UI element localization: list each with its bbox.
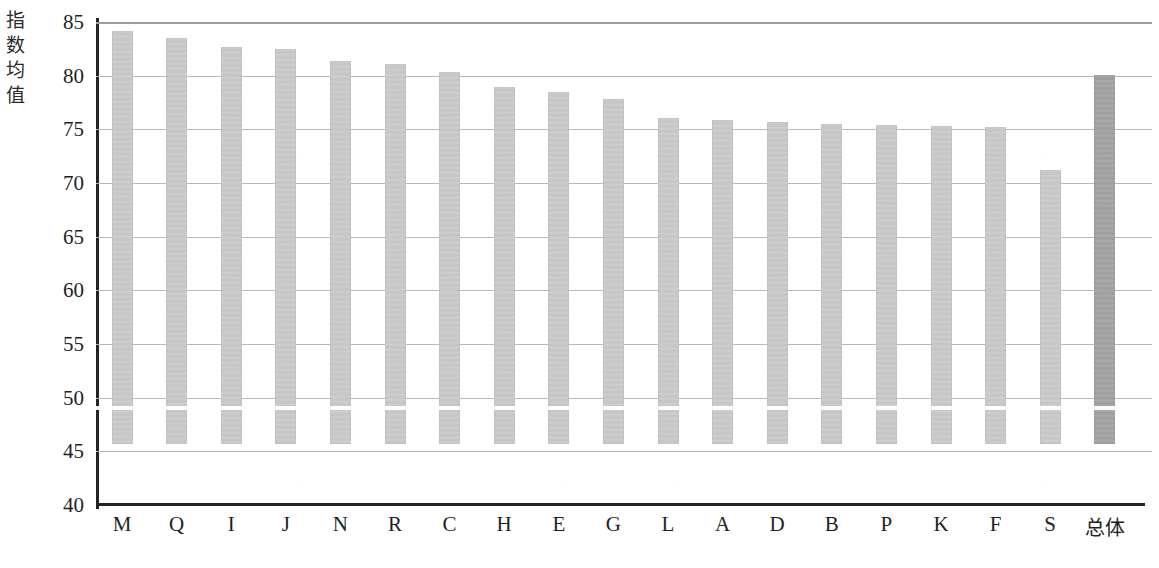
bar-chart: 指 数 均 值 85807570656055504540 MQIJNRCHEGL… bbox=[0, 0, 1159, 568]
y-tick-label: 75 bbox=[63, 117, 84, 142]
x-tick-label: M bbox=[113, 512, 132, 537]
x-tick-label: S bbox=[1044, 512, 1056, 537]
bar bbox=[166, 38, 187, 444]
bar bbox=[985, 127, 1006, 444]
x-tick-label: I bbox=[228, 512, 235, 537]
y-tick-label: 85 bbox=[63, 10, 84, 35]
bar bbox=[658, 118, 679, 444]
bar bbox=[330, 61, 351, 444]
bar bbox=[494, 87, 515, 444]
bar bbox=[767, 122, 788, 444]
x-tick-label: H bbox=[497, 512, 512, 537]
x-tick-label: L bbox=[662, 512, 675, 537]
bar bbox=[1040, 170, 1061, 444]
bar bbox=[1094, 75, 1115, 444]
bar bbox=[112, 31, 133, 444]
x-tick-label: K bbox=[933, 512, 948, 537]
bar bbox=[385, 64, 406, 444]
y-tick-label: 65 bbox=[63, 224, 84, 249]
x-tick-label: Q bbox=[169, 512, 184, 537]
y-tick-label: 40 bbox=[63, 493, 84, 518]
y-axis-title: 指 数 均 值 bbox=[2, 8, 28, 108]
bar bbox=[712, 120, 733, 444]
x-tick-label: R bbox=[388, 512, 402, 537]
bar bbox=[439, 72, 460, 444]
y-tick-label: 45 bbox=[63, 439, 84, 464]
x-tick-label: F bbox=[990, 512, 1002, 537]
bar bbox=[275, 49, 296, 444]
bars-layer bbox=[96, 0, 1159, 506]
scan-artifact-line bbox=[96, 406, 1145, 410]
y-tick-label: 70 bbox=[63, 171, 84, 196]
y-axis-tick-labels: 85807570656055504540 bbox=[28, 0, 90, 568]
x-tick-label: E bbox=[552, 512, 565, 537]
x-tick-label: 总体 bbox=[1085, 512, 1125, 541]
y-tick-label: 50 bbox=[63, 385, 84, 410]
bar bbox=[876, 125, 897, 444]
bar bbox=[603, 99, 624, 444]
x-tick-label: N bbox=[333, 512, 348, 537]
y-tick-label: 55 bbox=[63, 332, 84, 357]
bar bbox=[548, 92, 569, 444]
x-tick-label: A bbox=[715, 512, 730, 537]
x-tick-label: D bbox=[770, 512, 785, 537]
x-axis-line bbox=[96, 503, 1145, 506]
x-tick-label: P bbox=[881, 512, 893, 537]
x-tick-label: G bbox=[606, 512, 621, 537]
x-tick-label: B bbox=[825, 512, 839, 537]
bar bbox=[221, 47, 242, 444]
x-axis-tick-labels: MQIJNRCHEGLADBPKFS总体 bbox=[96, 512, 1159, 552]
y-tick-label: 60 bbox=[63, 278, 84, 303]
bar bbox=[821, 124, 842, 444]
bar bbox=[931, 126, 952, 444]
x-tick-label: C bbox=[443, 512, 457, 537]
x-tick-label: J bbox=[282, 512, 290, 537]
y-tick-label: 80 bbox=[63, 63, 84, 88]
